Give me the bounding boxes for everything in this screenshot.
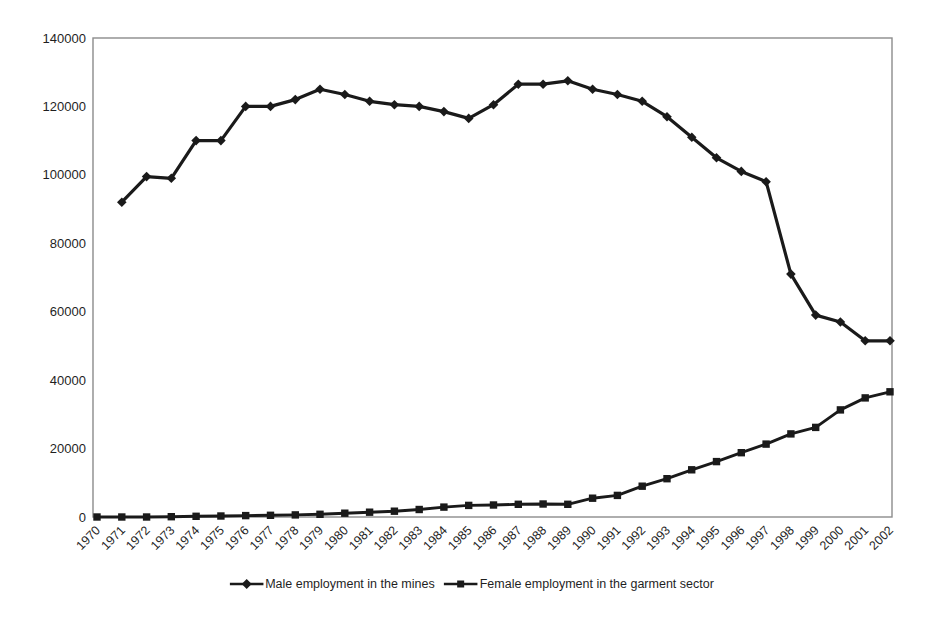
male-series-marker <box>414 102 424 112</box>
female-series-sample-icon <box>444 577 478 591</box>
female-series-marker <box>713 458 720 465</box>
male-series-marker <box>365 97 375 107</box>
x-axis-year-label: 1992 <box>619 523 649 553</box>
x-axis-year-label: 1972 <box>123 523 153 553</box>
plot-border <box>93 38 892 517</box>
x-axis-year-label: 1984 <box>420 523 450 553</box>
y-axis-tick-label: 140000 <box>43 31 86 46</box>
female-series-marker <box>168 513 175 520</box>
legend-label-male: Male employment in the mines <box>265 577 435 591</box>
female-series-marker <box>366 509 373 516</box>
male-series-marker <box>315 85 325 95</box>
x-axis-year-label: 1999 <box>792 523 822 553</box>
x-axis-year-label: 1980 <box>321 523 351 553</box>
x-axis-year-label: 1994 <box>668 523 698 553</box>
chart-canvas: 0200004000060000800001000001200001400001… <box>0 0 943 618</box>
female-series-marker <box>490 501 497 508</box>
female-series-line <box>97 392 890 517</box>
employment-line-chart: 0200004000060000800001000001200001400001… <box>0 0 943 618</box>
female-series-marker <box>762 440 769 447</box>
x-axis-year-label: 1983 <box>396 523 426 553</box>
female-series-marker <box>143 513 150 520</box>
x-axis-year-label: 1985 <box>445 523 475 553</box>
y-axis-tick-label: 0 <box>79 510 86 525</box>
x-axis-year-label: 2001 <box>842 523 872 553</box>
y-axis-tick-label: 40000 <box>50 373 86 388</box>
x-axis-year-label: 1997 <box>743 523 773 553</box>
x-axis-year-label: 1971 <box>98 523 128 553</box>
male-series-marker <box>885 336 895 346</box>
x-axis-year-label: 1978 <box>272 523 302 553</box>
legend-item-female: Female employment in the garment sector <box>444 577 714 591</box>
female-series-marker <box>738 449 745 456</box>
x-axis-year-label: 1993 <box>644 523 674 553</box>
male-series-marker <box>761 177 771 187</box>
female-series-marker <box>564 501 571 508</box>
x-axis-year-label: 1996 <box>718 523 748 553</box>
female-series-marker <box>93 513 100 520</box>
male-series-marker <box>538 79 548 89</box>
x-axis-year-label: 1975 <box>197 523 227 553</box>
y-axis-tick-label: 120000 <box>43 99 86 114</box>
diamond-marker-icon <box>241 579 251 589</box>
x-axis-year-label: 1970 <box>74 523 104 553</box>
x-axis-year-label: 1990 <box>569 523 599 553</box>
x-axis-year-label: 1979 <box>297 523 327 553</box>
male-series-marker <box>340 90 350 100</box>
male-series-marker <box>439 107 449 117</box>
x-axis-year-label: 1981 <box>346 523 376 553</box>
female-series-marker <box>886 388 893 395</box>
female-series-marker <box>465 502 472 509</box>
x-axis-year-label: 2002 <box>867 523 897 553</box>
legend-item-male: Male employment in the mines <box>229 577 435 591</box>
x-axis-year-label: 1995 <box>693 523 723 553</box>
x-axis-year-label: 2000 <box>817 523 847 553</box>
female-series-marker <box>118 513 125 520</box>
x-axis-year-label: 1998 <box>767 523 797 553</box>
x-axis-year-label: 1974 <box>173 523 203 553</box>
female-series-marker <box>416 506 423 513</box>
legend-label-female: Female employment in the garment sector <box>480 577 714 591</box>
y-axis-tick-label: 60000 <box>50 304 86 319</box>
female-series-marker <box>267 512 274 519</box>
female-series-marker <box>440 503 447 510</box>
y-axis-tick-label: 100000 <box>43 167 86 182</box>
male-series-marker <box>290 95 300 105</box>
y-axis-tick-label: 20000 <box>50 441 86 456</box>
female-series-marker <box>812 424 819 431</box>
chart-legend: Male employment in the mines Female empl… <box>229 577 714 591</box>
x-axis-year-label: 1987 <box>495 523 525 553</box>
male-series-marker <box>613 90 623 100</box>
female-series-marker <box>217 512 224 519</box>
female-series-marker <box>837 406 844 413</box>
female-series-marker <box>242 512 249 519</box>
female-series-marker <box>292 511 299 518</box>
x-axis-year-label: 1989 <box>544 523 574 553</box>
x-axis-year-label: 1982 <box>371 523 401 553</box>
female-series-marker <box>515 501 522 508</box>
x-axis-year-label: 1986 <box>470 523 500 553</box>
y-axis-tick-label: 80000 <box>50 236 86 251</box>
female-series-marker <box>341 510 348 517</box>
female-series-marker <box>639 483 646 490</box>
male-series-marker <box>563 76 573 86</box>
female-series-marker <box>663 475 670 482</box>
x-axis-year-label: 1991 <box>594 523 624 553</box>
male-series-marker <box>588 85 598 95</box>
female-series-marker <box>192 513 199 520</box>
x-axis-year-label: 1988 <box>520 523 550 553</box>
square-marker-icon <box>457 581 464 588</box>
male-series-marker <box>390 100 400 110</box>
male-series-sample-icon <box>229 577 263 591</box>
female-series-marker <box>787 430 794 437</box>
female-series-marker <box>539 500 546 507</box>
female-series-marker <box>391 508 398 515</box>
x-axis-year-label: 1976 <box>222 523 252 553</box>
male-series-marker <box>266 102 276 112</box>
female-series-marker <box>688 466 695 473</box>
male-series-line <box>122 81 890 341</box>
female-series-marker <box>862 394 869 401</box>
female-series-marker <box>614 492 621 499</box>
female-series-marker <box>589 495 596 502</box>
x-axis-year-label: 1973 <box>148 523 178 553</box>
